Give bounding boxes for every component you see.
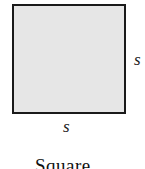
side-label-right: s — [134, 50, 141, 70]
shape-caption: Square — [35, 155, 91, 169]
square-shape — [12, 4, 126, 114]
side-label-bottom: s — [63, 117, 70, 137]
